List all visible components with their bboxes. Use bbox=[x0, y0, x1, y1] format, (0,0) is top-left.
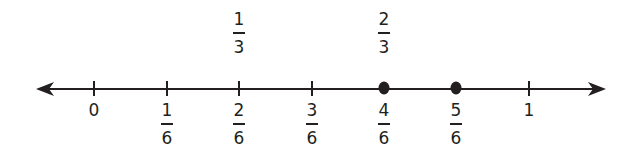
plotted-point bbox=[451, 82, 462, 95]
denominator: 6 bbox=[451, 128, 462, 148]
fraction-bar bbox=[450, 123, 462, 125]
fraction-bar bbox=[161, 123, 173, 125]
numerator: 5 bbox=[451, 100, 462, 120]
tick-fraction-label: 16 bbox=[152, 101, 182, 148]
tick-label: 0 bbox=[79, 101, 109, 120]
numerator: 2 bbox=[379, 9, 390, 29]
numerator: 2 bbox=[234, 100, 245, 120]
fraction-bar bbox=[378, 123, 390, 125]
denominator: 6 bbox=[379, 128, 390, 148]
fraction-bar bbox=[233, 123, 245, 125]
tick-fraction-label: 36 bbox=[297, 101, 327, 148]
denominator: 3 bbox=[379, 37, 390, 57]
tick-fraction-label: 26 bbox=[224, 101, 254, 148]
denominator: 6 bbox=[234, 128, 245, 148]
fraction-bar bbox=[233, 32, 245, 34]
plotted-point bbox=[379, 82, 390, 95]
fraction-bar bbox=[306, 123, 318, 125]
upper-fraction-label: 13 bbox=[224, 10, 254, 57]
upper-fraction-label: 23 bbox=[369, 10, 399, 57]
denominator: 6 bbox=[162, 128, 173, 148]
denominator: 6 bbox=[307, 128, 318, 148]
numerator: 1 bbox=[162, 100, 173, 120]
denominator: 3 bbox=[234, 37, 245, 57]
numerator: 3 bbox=[307, 100, 318, 120]
numerator: 4 bbox=[379, 100, 390, 120]
tick-fraction-label: 46 bbox=[369, 101, 399, 148]
tick-fraction-label: 56 bbox=[441, 101, 471, 148]
numerator: 1 bbox=[234, 9, 245, 29]
tick-label: 1 bbox=[514, 101, 544, 120]
fraction-bar bbox=[378, 32, 390, 34]
